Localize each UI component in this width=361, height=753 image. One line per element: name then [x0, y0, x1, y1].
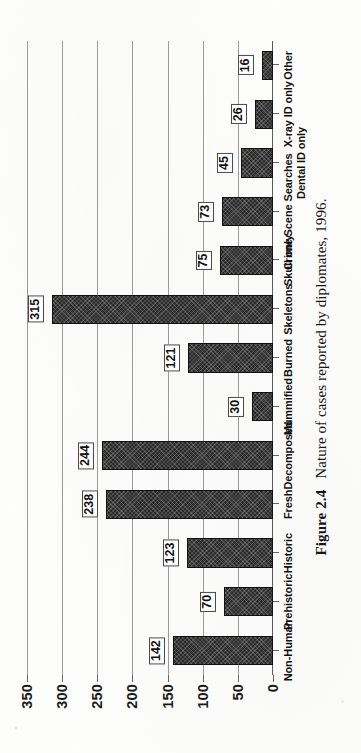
bar-value-label: 315 [27, 295, 43, 322]
bar-value-label: 73 [197, 201, 213, 221]
category-tick [273, 503, 279, 504]
value-axis-tick-label: 250 [89, 684, 105, 709]
category-label: X-ray ID only [282, 81, 294, 147]
bar[interactable] [261, 50, 272, 79]
value-axis-tick [202, 675, 203, 682]
bar[interactable] [251, 392, 272, 421]
value-axis-tick [132, 675, 133, 682]
bar-chart: 050100150200250300350142Non-Human70Prehi… [21, 27, 307, 727]
category-tick [273, 113, 279, 114]
bar-group[interactable]: 73 [27, 197, 273, 226]
value-axis-tick-label: 150 [159, 684, 175, 709]
bar[interactable] [254, 99, 272, 128]
bar[interactable] [221, 197, 272, 226]
figure-number: Figure 2.4 [313, 489, 329, 555]
category-label: Mummified [282, 378, 294, 435]
value-axis-tick [97, 675, 98, 682]
bar[interactable] [105, 489, 272, 518]
category-label: Crime Scene Searches [282, 153, 294, 270]
bar-group[interactable]: 142 [27, 636, 273, 665]
category-label: Other [282, 50, 294, 79]
category-tick [273, 552, 279, 553]
bar-group[interactable]: 16 [27, 50, 273, 79]
value-axis-tick [167, 675, 168, 682]
bar[interactable] [173, 636, 273, 665]
bar[interactable] [186, 538, 272, 567]
value-axis-tick [237, 675, 238, 682]
value-axis-tick-label: 350 [19, 684, 35, 709]
bar-group[interactable]: 123 [27, 538, 273, 567]
value-axis-tick-label: 300 [54, 684, 70, 709]
bar-group[interactable]: 70 [27, 587, 273, 616]
bar[interactable] [220, 245, 273, 274]
value-axis-tick [273, 675, 274, 682]
value-axis-tick-label: 200 [124, 684, 140, 709]
bar-value-label: 142 [149, 637, 165, 664]
category-tick [273, 600, 279, 601]
figure-caption-text: Nature of cases reported by diplomates, … [313, 198, 329, 478]
category-label: Burned [282, 339, 294, 377]
bar[interactable] [101, 440, 272, 469]
bar-group[interactable]: 238 [27, 489, 273, 518]
bar-value-label: 16 [237, 55, 253, 75]
figure-caption: Figure 2.4Nature of cases reported by di… [313, 27, 330, 727]
bar-group[interactable]: 30 [27, 392, 273, 421]
bar-group[interactable]: 315 [27, 294, 273, 323]
category-label: Dental ID only [295, 126, 307, 198]
category-label: Fresh [282, 489, 294, 518]
bar-value-label: 70 [199, 591, 215, 611]
category-label: Historic [282, 533, 294, 573]
category-tick [273, 405, 279, 406]
page-speck [341, 700, 344, 703]
bar-group[interactable]: 244 [27, 440, 273, 469]
bar-group[interactable]: 26 [27, 99, 273, 128]
bar-value-label: 244 [77, 442, 93, 469]
category-tick [273, 259, 279, 260]
category-tick [273, 357, 279, 358]
bar-group[interactable]: 121 [27, 343, 273, 372]
category-tick [273, 210, 279, 211]
bar-group[interactable]: 75 [27, 245, 273, 274]
bar-value-label: 123 [162, 539, 178, 566]
bar[interactable] [51, 294, 272, 323]
figure-block: 050100150200250300350142Non-Human70Prehi… [21, 27, 341, 727]
category-label: Prehistoric [282, 573, 294, 629]
category-tick [273, 454, 279, 455]
bar-value-label: 30 [227, 396, 243, 416]
value-axis-tick-label: 50 [229, 684, 245, 701]
bar-value-label: 121 [163, 344, 179, 371]
category-label: Skeletons [282, 283, 294, 334]
value-axis-tick-label: 100 [194, 684, 210, 709]
bar-value-label: 75 [196, 250, 212, 270]
bar-value-label: 45 [217, 152, 233, 172]
category-tick [273, 308, 279, 309]
bar-value-label: 26 [230, 104, 246, 124]
value-axis-tick [27, 675, 28, 682]
category-tick [273, 161, 279, 162]
plot-area: 050100150200250300350142Non-Human70Prehi… [27, 41, 273, 675]
bar[interactable] [223, 587, 272, 616]
bar-group[interactable]: 45 [27, 148, 273, 177]
page-speck [14, 726, 18, 730]
category-tick [273, 64, 279, 65]
value-axis-tick-label: 0 [265, 684, 281, 692]
bar[interactable] [187, 343, 272, 372]
bar-value-label: 238 [81, 490, 97, 517]
category-tick [273, 649, 279, 650]
value-axis-tick [62, 675, 63, 682]
bar[interactable] [241, 148, 273, 177]
